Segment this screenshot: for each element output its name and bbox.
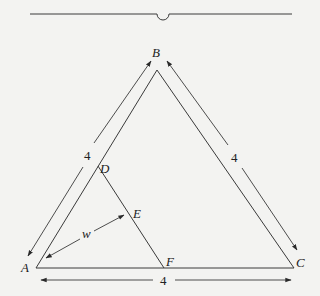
label-side-ac: 4 bbox=[160, 273, 167, 288]
label-a: A bbox=[20, 260, 29, 275]
triangle-abc bbox=[36, 70, 294, 268]
label-d: D bbox=[99, 161, 110, 176]
label-w: w bbox=[82, 226, 91, 241]
label-side-bc: 4 bbox=[231, 150, 238, 165]
label-side-ab: 4 bbox=[84, 148, 91, 163]
label-b: B bbox=[152, 45, 160, 60]
geometry-diagram: B A C D E F 4 4 4 w bbox=[0, 0, 320, 296]
top-rule bbox=[30, 14, 292, 20]
label-f: F bbox=[165, 254, 175, 269]
label-c: C bbox=[296, 255, 305, 270]
side-ab bbox=[36, 70, 157, 268]
label-e: E bbox=[132, 206, 141, 221]
segment-df bbox=[98, 166, 164, 268]
side-bc bbox=[157, 70, 294, 268]
